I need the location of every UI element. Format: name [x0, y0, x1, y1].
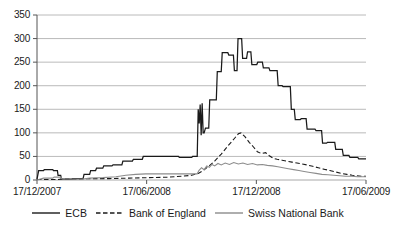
y-tick-label: 50 — [0, 151, 30, 161]
legend-label: Bank of England — [129, 208, 206, 219]
legend-swatch-icon — [215, 209, 243, 217]
y-tick-label: 250 — [0, 57, 30, 67]
axis-ticks — [33, 15, 366, 184]
series-line-ecb — [37, 39, 366, 179]
y-tick-label: 300 — [0, 34, 30, 44]
x-tick-label: 17/06/2009 — [321, 187, 395, 197]
legend-item: Bank of England — [96, 208, 206, 219]
x-tick-label: 17/12/2008 — [211, 187, 301, 197]
y-tick-label: 150 — [0, 104, 30, 114]
legend-label: ECB — [65, 208, 87, 219]
series-line-swiss-national-bank — [37, 163, 366, 180]
gridlines — [37, 15, 366, 180]
legend-label: Swiss National Bank — [248, 208, 344, 219]
y-tick-label: 200 — [0, 81, 30, 91]
legend-swatch-icon — [96, 209, 124, 217]
y-tick-label: 350 — [0, 10, 30, 20]
x-tick-label: 17/12/2007 — [0, 187, 82, 197]
y-tick-label: 100 — [0, 128, 30, 138]
legend-swatch-icon — [32, 209, 60, 217]
x-tick-label: 17/06/2008 — [102, 187, 192, 197]
legend-item: ECB — [32, 208, 87, 219]
legend-item: Swiss National Bank — [215, 208, 344, 219]
y-tick-label: 0 — [0, 175, 30, 185]
chart-legend: ECBBank of EnglandSwiss National Bank — [0, 205, 376, 221]
